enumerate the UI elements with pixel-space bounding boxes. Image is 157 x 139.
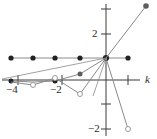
x-axis-label: k — [145, 74, 150, 85]
y-tick-label-two: 2 — [92, 28, 98, 39]
marker-open — [126, 127, 131, 132]
marker-filled — [30, 55, 35, 60]
series-ramp-filled-connector — [11, 6, 146, 82]
series-ramp-open — [11, 58, 131, 132]
marker-filled — [8, 55, 13, 60]
marker-filled — [78, 72, 83, 77]
marker-open — [31, 83, 36, 88]
marker-filled — [143, 3, 149, 9]
origin-stem-down — [93, 58, 106, 96]
sequence-plot-figure: −4 −2 2 −2 k — [0, 0, 157, 139]
series-constant-sequence — [8, 55, 130, 61]
marker-filled — [125, 55, 130, 60]
marker-open — [78, 92, 83, 97]
plot-canvas — [0, 0, 157, 139]
marker-filled — [52, 55, 57, 60]
y-tick-label-minus-two: −2 — [88, 123, 100, 134]
series-ramp-open-connector — [11, 58, 128, 129]
marker-filled — [77, 55, 82, 60]
marker-open — [53, 76, 58, 81]
x-tick-label-minus-2: −2 — [50, 84, 62, 95]
axes-group — [2, 4, 140, 136]
series-ramp-filled — [9, 3, 149, 83]
x-tick-label-minus-4: −4 — [6, 84, 18, 95]
